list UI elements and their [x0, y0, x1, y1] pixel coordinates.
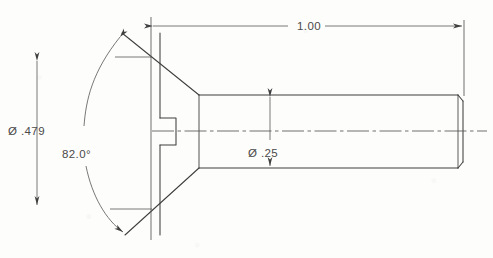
end-chamfer-bottom — [458, 162, 463, 168]
head-diameter-label: Ø .479 — [8, 125, 45, 137]
end-chamfer-top — [458, 95, 463, 101]
engineering-drawing-canvas: Ø .479 82.0° Ø .25 1.00 — [0, 0, 493, 258]
screw-section-drawing: Ø .479 82.0° Ø .25 1.00 — [0, 0, 493, 258]
shaft-diameter-label: Ø .25 — [248, 147, 278, 159]
head-slot-notch — [160, 118, 176, 145]
angle-arc-upper — [84, 37, 120, 126]
angle-arc-lower — [86, 166, 123, 232]
countersink-angle-label: 82.0° — [62, 148, 91, 160]
overall-length-label: 1.00 — [297, 20, 321, 32]
head-cone-bottom-edge — [125, 168, 199, 235]
